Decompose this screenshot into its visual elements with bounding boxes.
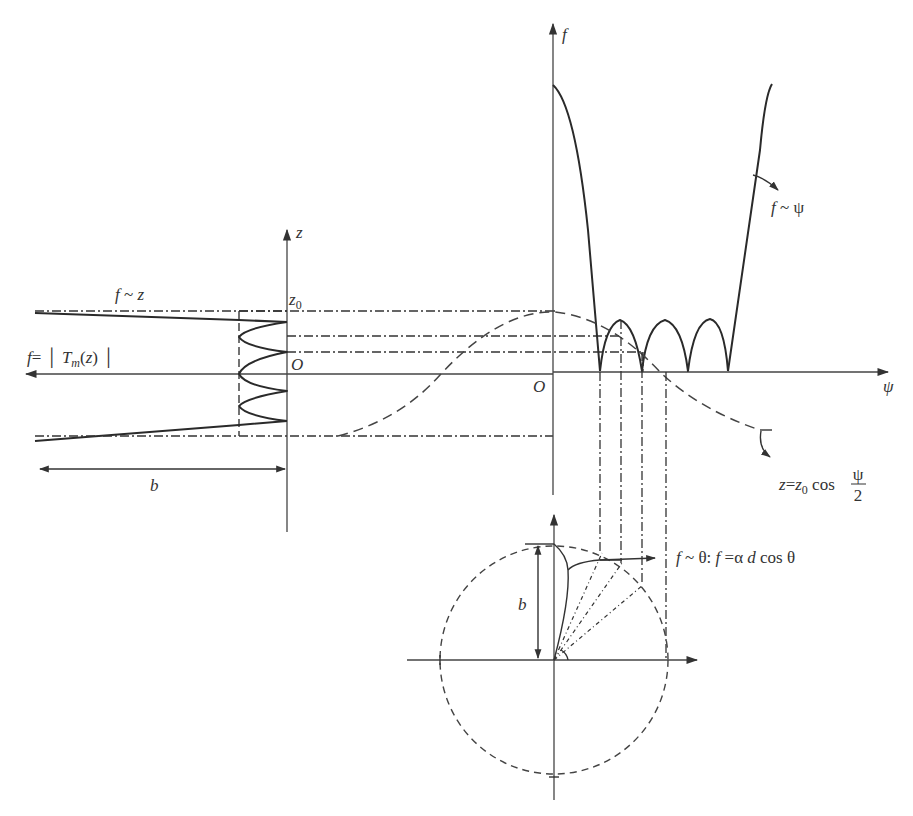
b-left-label: b <box>150 476 159 495</box>
f-theta-label: f ~ θ: f =α d cos θ <box>676 548 795 567</box>
polar-pattern-curve <box>554 544 568 660</box>
f-z-label: f ~ z <box>115 285 144 304</box>
svg-text:ψ: ψ <box>853 465 864 484</box>
side-lobe-curve <box>600 319 728 371</box>
array-factor-panel: f ψ O f ~ ψ z=z0 cos ψ 2 <box>338 24 894 505</box>
psi-axis-label: ψ <box>883 377 894 396</box>
grating-lobe-curve <box>728 84 772 371</box>
f-theta-arrow <box>600 558 655 560</box>
svg-text:2: 2 <box>854 486 863 505</box>
svg-text:z=z0 cos: z=z0 cos <box>778 475 835 497</box>
chebyshev-lower-tail <box>35 421 287 441</box>
z0-label: z0 <box>288 290 302 312</box>
f-tm-label: f= │ Tm(z) │ <box>27 347 114 370</box>
f-axis-label: f <box>562 25 569 44</box>
f-psi-label: f ~ ψ <box>771 198 804 217</box>
chebyshev-construction-diagram: f ~ z f= │ Tm(z) │ z z0 O b <box>0 0 913 816</box>
chebyshev-polynomial-panel: f ~ z f= │ Tm(z) │ z z0 O b <box>26 223 553 532</box>
origin-left-label: O <box>291 355 303 374</box>
main-lobe-curve <box>553 85 600 371</box>
polar-pattern-panel: b f ~ θ: f =α d cos θ <box>407 515 795 800</box>
z-axis-label: z <box>295 223 303 242</box>
b-polar-label: b <box>518 595 527 614</box>
chebyshev-ripple-curve <box>239 322 287 421</box>
origin-right-label: O <box>533 377 545 396</box>
chebyshev-upper-tail <box>35 313 287 322</box>
cos-curve-pointer <box>760 431 770 457</box>
cos-mapping-label: z=z0 cos ψ 2 <box>778 465 866 505</box>
